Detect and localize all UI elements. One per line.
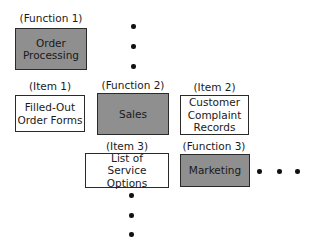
ellipsis-dot-icon <box>295 169 300 174</box>
item-1-tag: (Item 1) <box>15 80 85 92</box>
function-2-tag: (Function 2) <box>97 79 169 91</box>
item-3-box: List of Service Options <box>85 153 169 188</box>
function-1-label: Order Processing <box>23 37 79 62</box>
item-1-label: Filled-Out Order Forms <box>17 101 82 126</box>
ellipsis-dot-icon <box>131 44 136 49</box>
function-2-label: Sales <box>119 108 147 121</box>
function-3-tag: (Function 3) <box>178 140 250 152</box>
ellipsis-dot-icon <box>129 193 134 198</box>
item-3-label: List of Service Options <box>86 152 168 190</box>
item-2-box: List of Service Options Customer Complai… <box>180 95 249 135</box>
function-2-box: Sales <box>97 93 169 135</box>
function-1-box: Order Processing <box>15 28 87 70</box>
ellipsis-dot-icon <box>129 232 134 237</box>
function-3-box: Marketing <box>180 154 250 187</box>
ellipsis-dot-icon <box>257 169 262 174</box>
ellipsis-dot-icon <box>131 64 136 69</box>
ellipsis-dot-icon <box>277 169 282 174</box>
item-2-label-text: Customer Complaint Records <box>188 96 242 134</box>
ellipsis-dot-icon <box>131 24 136 29</box>
function-3-label: Marketing <box>189 164 241 177</box>
item-3-tag: (Item 3) <box>85 140 169 152</box>
item-2-tag: (Item 2) <box>180 81 249 93</box>
ellipsis-dot-icon <box>129 213 134 218</box>
function-1-tag: (Function 1) <box>15 12 87 24</box>
item-1-box: Filled-Out Order Forms <box>15 95 85 132</box>
